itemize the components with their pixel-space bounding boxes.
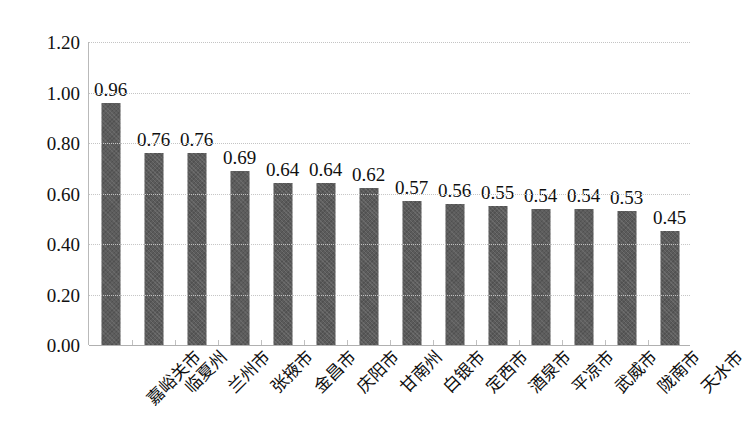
bar[interactable] bbox=[101, 103, 120, 345]
bar-value-label: 0.96 bbox=[94, 80, 127, 99]
bar[interactable] bbox=[488, 206, 507, 345]
bar[interactable] bbox=[574, 209, 593, 345]
bar[interactable] bbox=[445, 204, 464, 345]
bar[interactable] bbox=[144, 153, 163, 345]
y-axis-tick-label: 0.80 bbox=[0, 134, 80, 153]
bar-value-label: 0.54 bbox=[567, 186, 600, 205]
x-axis-category-labels: 嘉峪关市临夏州兰州市张掖市金昌市庆阳市甘南州白银市定西市酒泉市平凉市武威市陇南市… bbox=[88, 348, 690, 445]
bar[interactable] bbox=[531, 209, 550, 345]
bar-value-label: 0.64 bbox=[309, 160, 342, 179]
x-axis-label-8: 定西市 bbox=[482, 348, 531, 397]
x-axis-label-3: 张掖市 bbox=[267, 348, 316, 397]
gridline-1-00 bbox=[89, 93, 690, 94]
gridline-0-60 bbox=[89, 194, 690, 195]
y-axis-tick-label: 0.20 bbox=[0, 285, 80, 304]
gridline-0-20 bbox=[89, 295, 690, 296]
bar-value-label: 0.76 bbox=[180, 130, 213, 149]
y-axis-tick-label: 1.20 bbox=[0, 33, 80, 52]
y-axis-tick-label: 0.40 bbox=[0, 235, 80, 254]
plot-area: 0.960.760.760.690.640.640.620.570.560.55… bbox=[88, 42, 690, 345]
y-axis-tick-label: 0.00 bbox=[0, 336, 80, 355]
x-axis-label-7: 白银市 bbox=[439, 348, 488, 397]
x-axis-label-9: 酒泉市 bbox=[525, 348, 574, 397]
bar-value-label: 0.54 bbox=[524, 186, 557, 205]
bar[interactable] bbox=[187, 153, 206, 345]
gridline-0-80 bbox=[89, 143, 690, 144]
y-axis-tick-label: 0.60 bbox=[0, 184, 80, 203]
bar[interactable] bbox=[617, 211, 636, 345]
bar[interactable] bbox=[402, 201, 421, 345]
bar-value-label: 0.64 bbox=[266, 160, 299, 179]
bar[interactable] bbox=[273, 183, 292, 345]
bar-value-label: 0.53 bbox=[610, 188, 643, 207]
y-axis-tick-label: 1.00 bbox=[0, 83, 80, 102]
x-axis-label-13: 天水市 bbox=[697, 348, 746, 397]
bar-value-label: 0.45 bbox=[653, 208, 686, 227]
bar[interactable] bbox=[230, 171, 249, 345]
x-axis-label-11: 武威市 bbox=[611, 348, 660, 397]
gridline-1-20 bbox=[89, 42, 690, 43]
x-axis-label-2: 兰州市 bbox=[224, 348, 273, 397]
bar[interactable] bbox=[359, 188, 378, 345]
x-axis-label-5: 庆阳市 bbox=[353, 348, 402, 397]
x-axis-label-12: 陇南市 bbox=[654, 348, 703, 397]
x-axis-label-4: 金昌市 bbox=[310, 348, 359, 397]
bar-value-label: 0.76 bbox=[137, 130, 170, 149]
bar[interactable] bbox=[316, 183, 335, 345]
bar-value-label: 0.56 bbox=[438, 181, 471, 200]
bar-value-label: 0.62 bbox=[352, 165, 385, 184]
x-axis-label-6: 甘南州 bbox=[396, 348, 445, 397]
gridline-0-40 bbox=[89, 244, 690, 245]
x-axis-label-10: 平凉市 bbox=[568, 348, 617, 397]
bar[interactable] bbox=[660, 231, 679, 345]
bar-value-label: 0.69 bbox=[223, 148, 256, 167]
gridline-0-00 bbox=[89, 345, 690, 346]
